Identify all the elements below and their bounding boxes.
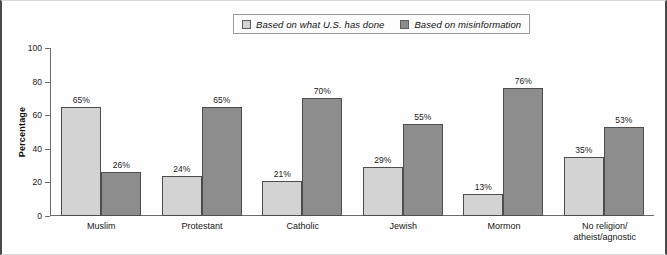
bar-pair: 21%70%: [262, 48, 342, 216]
y-tick-label: 0: [37, 211, 42, 221]
bar-series-2[interactable]: 55%: [403, 124, 443, 216]
bar-series-2[interactable]: 53%: [604, 127, 644, 216]
y-tick-mark: [45, 48, 50, 49]
bar-value-label: 13%: [475, 182, 492, 192]
x-axis-label: No religion/atheist/agnostic: [554, 221, 655, 243]
y-tick-label: 60: [33, 110, 42, 120]
bar-value-label: 55%: [414, 112, 431, 122]
bar-value-label: 65%: [73, 95, 90, 105]
bar-value-label: 21%: [274, 169, 291, 179]
bar-pair: 29%55%: [363, 48, 443, 216]
bar-series-2[interactable]: 26%: [101, 172, 141, 216]
x-axis-label: Mormon: [454, 221, 555, 243]
x-axis-label-line: Mormon: [454, 221, 555, 232]
y-tick-mark: [45, 149, 50, 150]
bar-series-1[interactable]: 29%: [363, 167, 403, 216]
y-tick-mark: [45, 115, 50, 116]
bar-value-label: 70%: [314, 86, 331, 96]
bar-series-1[interactable]: 24%: [162, 176, 202, 216]
bar-series-1[interactable]: 65%: [61, 107, 101, 216]
bar-value-label: 29%: [374, 155, 391, 165]
legend-swatch-light: [242, 20, 251, 29]
y-tick-mark: [45, 216, 50, 217]
bar-groups: 65%26%24%65%21%70%29%55%13%76%35%53%: [51, 48, 654, 216]
bar-group: 24%65%: [152, 48, 253, 216]
y-tick-label: 20: [33, 177, 42, 187]
y-tick-mark: [45, 182, 50, 183]
bar-group: 29%55%: [353, 48, 454, 216]
bar-series-2[interactable]: 70%: [302, 98, 342, 216]
bar-value-label: 76%: [515, 76, 532, 86]
bar-pair: 35%53%: [564, 48, 644, 216]
bar-group: 65%26%: [51, 48, 152, 216]
plot-area: 020406080100 65%26%24%65%21%70%29%55%13%…: [50, 48, 654, 216]
x-axis-label-line: Protestant: [152, 221, 253, 232]
chart-frame: Based on what U.S. has done Based on mis…: [0, 0, 667, 255]
chart-legend: Based on what U.S. has done Based on mis…: [233, 14, 530, 34]
bar-value-label: 53%: [615, 115, 632, 125]
bar-series-2[interactable]: 65%: [202, 107, 242, 216]
bar-group: 13%76%: [453, 48, 554, 216]
x-axis-label-line: Catholic: [252, 221, 353, 232]
y-axis-title-text: Percentage: [17, 107, 27, 158]
x-axis-labels: MuslimProtestantCatholicJewishMormonNo r…: [51, 221, 655, 243]
legend-label-series-2: Based on misinformation: [414, 19, 521, 30]
legend-label-series-1: Based on what U.S. has done: [256, 19, 384, 30]
legend-entry-series-1[interactable]: Based on what U.S. has done: [242, 19, 384, 30]
y-tick-label: 100: [28, 43, 42, 53]
bar-series-2[interactable]: 76%: [503, 88, 543, 216]
x-axis-label: Muslim: [51, 221, 152, 243]
x-axis-label-line: atheist/agnostic: [554, 232, 655, 243]
bar-group: 21%70%: [252, 48, 353, 216]
bar-pair: 65%26%: [61, 48, 141, 216]
bar-series-1[interactable]: 13%: [463, 194, 503, 216]
bar-value-label: 35%: [575, 145, 592, 155]
x-axis-label-line: Jewish: [353, 221, 454, 232]
y-tick-label: 80: [33, 77, 42, 87]
legend-swatch-dark: [400, 20, 409, 29]
x-axis-label: Catholic: [252, 221, 353, 243]
x-axis-label-line: Muslim: [51, 221, 152, 232]
bar-group: 35%53%: [554, 48, 655, 216]
bar-value-label: 65%: [213, 95, 230, 105]
bar-value-label: 26%: [113, 160, 130, 170]
x-axis-label: Jewish: [353, 221, 454, 243]
legend-entry-series-2[interactable]: Based on misinformation: [400, 19, 521, 30]
bar-series-1[interactable]: 35%: [564, 157, 604, 216]
y-tick-mark: [45, 82, 50, 83]
x-axis-label-line: No religion/: [554, 221, 655, 232]
x-axis-label: Protestant: [152, 221, 253, 243]
bar-series-1[interactable]: 21%: [262, 181, 302, 216]
bar-pair: 24%65%: [162, 48, 242, 216]
bar-value-label: 24%: [173, 164, 190, 174]
y-axis-title: Percentage: [16, 48, 28, 216]
bar-pair: 13%76%: [463, 48, 543, 216]
y-tick-label: 40: [33, 144, 42, 154]
